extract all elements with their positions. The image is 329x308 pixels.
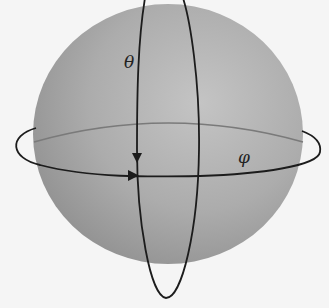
diagram-svg: θ φ <box>0 0 329 308</box>
theta-label: θ <box>124 52 134 72</box>
sphere-diagram: θ φ <box>0 0 329 308</box>
sphere <box>33 4 303 264</box>
phi-label: φ <box>238 147 250 167</box>
